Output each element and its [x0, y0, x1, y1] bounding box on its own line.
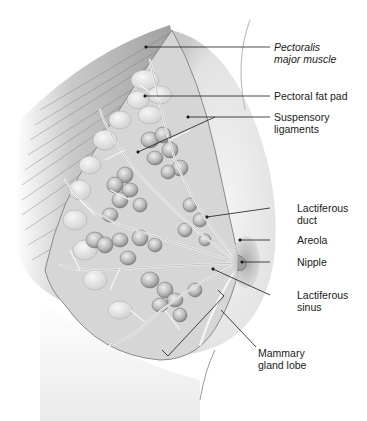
label-line: Lactiferous	[297, 202, 348, 214]
label-line: Nipple	[297, 256, 327, 268]
label-lactiferous-sinus: Lactiferous sinus	[297, 289, 348, 313]
label-line: major muscle	[274, 53, 336, 65]
label-line: sinus	[297, 301, 348, 313]
label-areola: Areola	[297, 234, 327, 246]
label-line: Suspensory	[274, 111, 329, 123]
label-line: Areola	[297, 234, 327, 246]
label-line: ligaments	[274, 123, 329, 135]
label-line: Pectoral fat pad	[274, 90, 348, 102]
label-mammary-gland-lobe: Mammary gland lobe	[258, 347, 306, 371]
label-lactiferous-duct: Lactiferous duct	[297, 202, 348, 226]
label-pectoral-fat-pad: Pectoral fat pad	[274, 90, 348, 102]
label-line: duct	[297, 214, 348, 226]
label-suspensory-ligaments: Suspensory ligaments	[274, 111, 329, 135]
label-pectoralis-major-muscle: Pectoralis major muscle	[274, 41, 336, 65]
label-line: Pectoralis	[274, 41, 336, 53]
label-line: Lactiferous	[297, 289, 348, 301]
label-line: gland lobe	[258, 359, 306, 371]
label-nipple: Nipple	[297, 256, 327, 268]
label-line: Mammary	[258, 347, 306, 359]
